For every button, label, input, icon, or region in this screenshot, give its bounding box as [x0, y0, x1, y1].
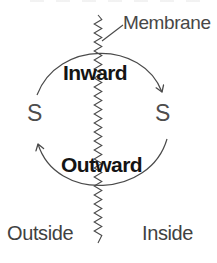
outward-label: Outward — [61, 154, 142, 176]
inside-label: Inside — [142, 223, 193, 244]
substrate-s-left: S — [27, 101, 42, 125]
outside-label: Outside — [7, 223, 73, 244]
inward-label: Inward — [63, 62, 127, 84]
substrate-s-right: S — [155, 101, 170, 125]
membrane-transport-diagram: Membrane Inward S S Outward Outside Insi… — [0, 0, 217, 263]
membrane-label: Membrane — [123, 13, 211, 33]
membrane-pointer-line — [102, 25, 123, 41]
membrane-zigzag-line — [94, 15, 102, 243]
